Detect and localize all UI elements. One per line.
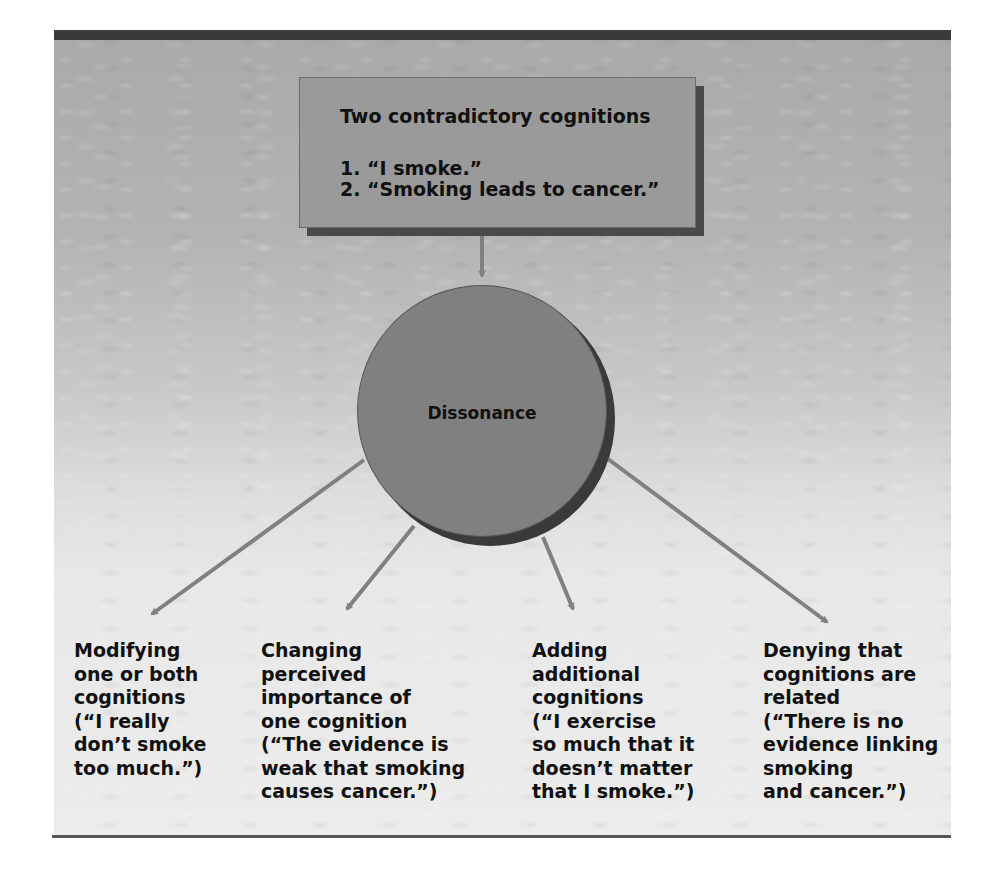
arrow-to-changing <box>347 526 414 609</box>
strategy-line: one cognition <box>261 710 465 734</box>
strategy-line: Adding <box>532 639 694 663</box>
arrow-to-denying <box>608 459 827 622</box>
cognition-1: 1. “I smoke.” <box>340 157 482 179</box>
strategy-line: perceived <box>261 663 465 687</box>
contradictory-cognitions-box: Two contradictory cognitions 1. “I smoke… <box>299 77 696 228</box>
strategy-changing-importance: Changing perceived importance of one cog… <box>261 639 465 804</box>
strategy-line: (“There is no <box>763 710 938 734</box>
strategy-line: additional <box>532 663 694 687</box>
strategy-line: smoking <box>763 757 938 781</box>
dissonance-label: Dissonance <box>427 403 536 423</box>
strategy-line: that I smoke.”) <box>532 780 694 804</box>
strategy-line: Modifying <box>74 639 206 663</box>
strategy-line: (“I really <box>74 710 206 734</box>
arrow-to-adding <box>543 537 573 609</box>
strategy-line: cognitions <box>74 686 206 710</box>
strategy-line: related <box>763 686 938 710</box>
bottom-rule <box>52 835 951 838</box>
strategy-line: and cancer.”) <box>763 780 938 804</box>
cognition-2: 2. “Smoking leads to cancer.” <box>340 178 660 200</box>
strategy-denying: Denying that cognitions are related (“Th… <box>763 639 938 804</box>
strategy-line: evidence linking <box>763 733 938 757</box>
strategy-line: don’t smoke <box>74 733 206 757</box>
strategy-line: doesn’t matter <box>532 757 694 781</box>
strategy-line: one or both <box>74 663 206 687</box>
dissonance-node: Dissonance <box>357 285 607 537</box>
strategy-line: (“The evidence is <box>261 733 465 757</box>
strategy-line: cognitions <box>532 686 694 710</box>
strategy-line: Changing <box>261 639 465 663</box>
strategy-line: too much.”) <box>74 757 206 781</box>
strategy-line: weak that smoking <box>261 757 465 781</box>
box-title: Two contradictory cognitions <box>340 105 651 127</box>
strategy-line: causes cancer.”) <box>261 780 465 804</box>
strategy-line: so much that it <box>532 733 694 757</box>
strategy-modifying: Modifying one or both cognitions (“I rea… <box>74 639 206 780</box>
arrow-to-modifying <box>152 460 364 614</box>
strategy-line: importance of <box>261 686 465 710</box>
strategy-line: cognitions are <box>763 663 938 687</box>
strategy-line: (“I exercise <box>532 710 694 734</box>
strategy-adding: Adding additional cognitions (“I exercis… <box>532 639 694 804</box>
strategy-line: Denying that <box>763 639 938 663</box>
